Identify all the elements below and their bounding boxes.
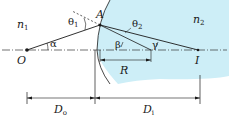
- label-Do: Do: [53, 103, 67, 117]
- label-O: O: [17, 54, 26, 67]
- label-I: I: [194, 54, 200, 67]
- label-theta1: θ1: [68, 16, 79, 29]
- refraction-diagram: n1 n2 A O I θ1 θ2 α β γ R Do Di: [0, 0, 229, 120]
- label-Di: Di: [142, 103, 155, 117]
- point-A-dot: [99, 24, 102, 27]
- point-O-dot: [25, 48, 29, 52]
- do-arrow-left: [27, 97, 32, 100]
- label-A: A: [95, 8, 104, 21]
- theta1-arc: [84, 18, 86, 30]
- label-n1: n1: [17, 18, 29, 32]
- di-arrow-left: [95, 97, 100, 100]
- label-alpha: α: [50, 38, 57, 49]
- diagram-canvas: n1 n2 A O I θ1 θ2 α β γ R Do Di: [0, 0, 229, 120]
- point-I-dot: [197, 49, 200, 52]
- label-beta: β: [115, 39, 121, 50]
- di-arrow-right: [195, 97, 200, 100]
- label-gamma: γ: [152, 39, 158, 50]
- alpha-arc: [47, 43, 48, 50]
- do-arrow-right: [90, 97, 95, 100]
- label-R: R: [119, 64, 128, 77]
- incident-ray: [27, 25, 100, 50]
